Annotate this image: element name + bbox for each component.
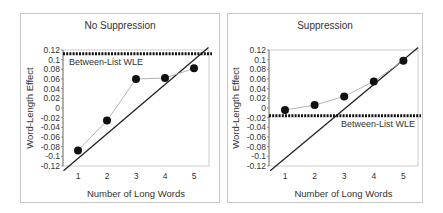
y-tick-label: -0.06 — [247, 132, 267, 142]
y-tick-label: -0.12 — [41, 161, 61, 171]
x-tick-label: 2 — [312, 171, 317, 181]
y-tick-label: -0.1 — [45, 151, 60, 161]
y-tick-label: 0.02 — [43, 93, 60, 103]
y-tick-label: -0.08 — [247, 142, 267, 152]
x-tick-label: 4 — [163, 171, 168, 181]
between-list-wle-label: Between-List WLE — [69, 57, 143, 67]
chart-plot: 0.120.10.080.060.040.020-0.02-0.04-0.06-… — [228, 14, 424, 204]
x-axis-label: Number of Long Words — [294, 188, 392, 199]
y-tick-label: 0.1 — [48, 55, 60, 65]
data-point — [132, 75, 140, 83]
y-tick-label: -0.04 — [41, 122, 61, 132]
between-list-wle-label: Between-List WLE — [341, 119, 415, 129]
x-axis-label: Number of Long Words — [87, 188, 185, 199]
y-tick-label: -0.02 — [41, 113, 61, 123]
x-tick-label: 1 — [76, 171, 81, 181]
y-tick-label: 0.04 — [43, 84, 60, 94]
y-tick-label: -0.12 — [247, 161, 267, 171]
y-tick-label: 0.08 — [43, 64, 60, 74]
y-axis-label: Word-Length Effect — [24, 67, 35, 149]
y-tick-label: -0.08 — [41, 142, 61, 152]
data-point — [190, 64, 198, 72]
chart-panel-suppression: Suppression 0.120.10.080.060.040.020-0.0… — [227, 13, 423, 203]
y-tick-label: 0.12 — [249, 45, 266, 55]
chart-plot: 0.120.10.080.060.040.020-0.02-0.04-0.06-… — [21, 14, 221, 204]
y-tick-label: 0.04 — [249, 84, 266, 94]
data-point — [281, 106, 289, 114]
x-tick-label: 5 — [192, 171, 197, 181]
data-point — [311, 101, 319, 109]
data-point — [103, 117, 111, 125]
y-tick-label: 0.02 — [249, 93, 266, 103]
y-tick-label: -0.1 — [251, 151, 266, 161]
y-tick-label: 0.06 — [43, 74, 60, 84]
y-tick-label: 0 — [55, 103, 60, 113]
y-tick-label: 0 — [261, 103, 266, 113]
y-tick-label: 0.06 — [249, 74, 266, 84]
observed-series-line — [285, 61, 403, 110]
x-tick-label: 4 — [371, 171, 376, 181]
plot-area — [269, 50, 418, 166]
x-tick-label: 1 — [283, 171, 288, 181]
x-tick-label: 3 — [342, 171, 347, 181]
data-point — [161, 74, 169, 82]
y-tick-label: 0.12 — [43, 45, 60, 55]
y-axis-label: Word-Length Effect — [230, 67, 241, 149]
y-tick-label: -0.02 — [247, 113, 267, 123]
y-tick-label: 0.08 — [249, 64, 266, 74]
data-point — [340, 92, 348, 100]
y-tick-label: 0.1 — [254, 55, 266, 65]
plot-area — [63, 50, 209, 166]
data-point — [399, 57, 407, 65]
chart-panel-no-suppression: No Suppression 0.120.10.080.060.040.020-… — [20, 13, 220, 203]
y-tick-label: -0.06 — [41, 132, 61, 142]
data-point — [74, 147, 82, 155]
x-tick-label: 5 — [401, 171, 406, 181]
x-tick-label: 3 — [134, 171, 139, 181]
x-tick-label: 2 — [105, 171, 110, 181]
data-point — [370, 77, 378, 85]
y-tick-label: -0.04 — [247, 122, 267, 132]
